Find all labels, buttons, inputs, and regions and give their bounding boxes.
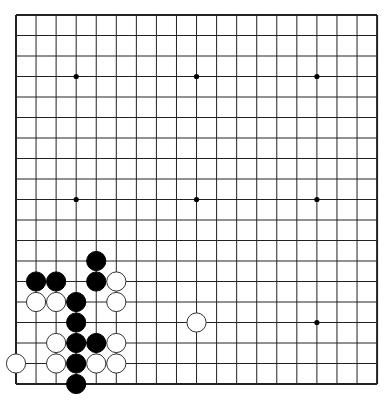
star-point	[194, 74, 199, 79]
star-point	[74, 197, 79, 202]
black-stone	[67, 354, 86, 373]
white-stone	[107, 292, 126, 311]
white-stone	[107, 354, 126, 373]
black-stone	[87, 333, 106, 352]
white-stone	[47, 354, 66, 373]
white-stone	[87, 354, 106, 373]
black-stone	[67, 333, 86, 352]
white-stone	[47, 292, 66, 311]
white-stone	[187, 313, 206, 332]
white-stone	[47, 333, 66, 352]
star-point	[314, 320, 319, 325]
white-stone	[26, 292, 45, 311]
black-stone	[87, 272, 106, 291]
star-point	[194, 197, 199, 202]
star-point	[74, 74, 79, 79]
black-stone	[67, 292, 86, 311]
star-point	[314, 197, 319, 202]
star-point	[314, 74, 319, 79]
white-stone	[6, 354, 25, 373]
black-stone	[87, 251, 106, 270]
black-stone	[26, 272, 45, 291]
black-stone	[67, 313, 86, 332]
white-stone	[107, 272, 126, 291]
black-stone	[47, 272, 66, 291]
go-board[interactable]	[0, 0, 390, 401]
black-stone	[67, 374, 86, 393]
white-stone	[107, 333, 126, 352]
